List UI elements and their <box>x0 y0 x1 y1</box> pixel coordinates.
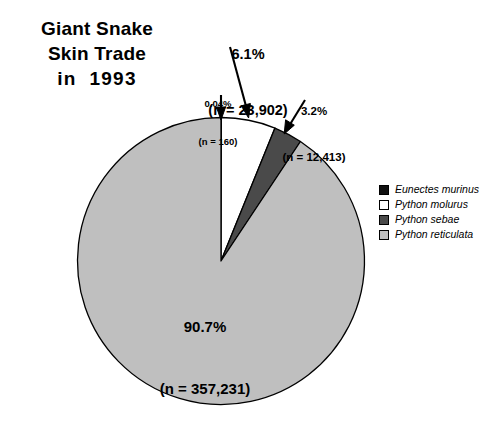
slice-label-count: (n = 357,231) <box>116 379 294 400</box>
legend-item-python-reticulata[interactable]: Python reticulata <box>379 227 495 242</box>
legend: Eunectes murinusPython molurusPython seb… <box>379 182 495 242</box>
callout-sebae-percent: 3.2% <box>262 104 366 119</box>
legend-item-eunectes-murinus[interactable]: Eunectes murinus <box>379 182 495 197</box>
legend-item-label: Python reticulata <box>395 229 473 240</box>
legend-swatch-icon <box>379 215 389 225</box>
callout-sebae-count: (n = 12,413) <box>262 150 366 165</box>
legend-item-python-sebae[interactable]: Python sebae <box>379 212 495 227</box>
callout-murinus-percent: 0.04% <box>179 98 257 111</box>
callout-python-sebae: 3.2% (n = 12,413) <box>262 74 366 180</box>
legend-item-python-molurus[interactable]: Python molurus <box>379 197 495 212</box>
callout-eunectes-murinus: 0.04% (n = 160) <box>179 72 257 162</box>
slice-label-percent: 90.7% <box>116 317 294 338</box>
slice-label-python-reticulata: 90.7% (n = 357,231) <box>116 276 294 421</box>
legend-swatch-icon <box>379 185 389 195</box>
legend-item-label: Python molurus <box>395 199 468 210</box>
legend-swatch-icon <box>379 230 389 240</box>
callout-molurus-percent: 6.1% <box>184 45 312 64</box>
callout-murinus-count: (n = 160) <box>179 136 257 149</box>
legend-item-label: Eunectes murinus <box>395 184 479 195</box>
legend-swatch-icon <box>379 200 389 210</box>
legend-item-label: Python sebae <box>395 214 459 225</box>
